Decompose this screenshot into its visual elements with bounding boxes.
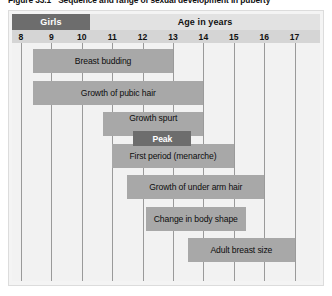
axis-tick-8: 8 <box>10 30 32 43</box>
axis-tick-9: 9 <box>40 30 62 43</box>
bar-label: Growth spurt <box>129 113 177 123</box>
axis-tick-17: 17 <box>284 30 306 43</box>
axis-tick-row: 891011121314151617 <box>12 30 320 43</box>
bar-label: Breast budding <box>75 56 131 66</box>
bar-label: Growth of pubic hair <box>81 88 156 98</box>
bar-label: Growth of under arm hair <box>149 182 242 192</box>
bar-adult-breast-size: Adult breast size <box>188 238 294 262</box>
gridline-8 <box>21 43 22 281</box>
bar-change-in-body-shape: Change in body shape <box>146 207 246 231</box>
bar-label: Change in body shape <box>154 214 238 224</box>
figure-caption: Figure 33.1Sequence and range of sexual … <box>8 0 332 7</box>
plot-area: Breast buddingGrowth of pubic hairGrowth… <box>12 43 320 281</box>
axis-tick-14: 14 <box>192 30 214 43</box>
bar-breast-budding: Breast budding <box>33 49 173 73</box>
figure-caption-text: Sequence and range of sexual development… <box>58 0 270 5</box>
bar-first-period-menarche: First period (menarche) <box>112 144 234 168</box>
bar-label: First period (menarche) <box>129 151 216 161</box>
gridline-17 <box>295 43 296 281</box>
gridline-9 <box>51 43 52 281</box>
figure-root: Figure 33.1Sequence and range of sexual … <box>0 0 332 296</box>
subbar-label: Peak <box>153 134 173 144</box>
axis-tick-12: 12 <box>132 30 154 43</box>
figure-number: Figure 33.1 <box>8 0 51 5</box>
gridline-10 <box>82 43 83 281</box>
axis-tick-11: 11 <box>101 30 123 43</box>
axis-tick-15: 15 <box>223 30 245 43</box>
axis-tick-13: 13 <box>162 30 184 43</box>
axis-title: Age in years <box>90 14 320 30</box>
bar-growth-of-under-arm-hair: Growth of under arm hair <box>127 175 264 199</box>
subbar-peak: Peak <box>133 131 191 146</box>
bar-label: Adult breast size <box>210 245 272 255</box>
axis-tick-10: 10 <box>71 30 93 43</box>
bar-growth-of-pubic-hair: Growth of pubic hair <box>33 81 203 105</box>
axis-tick-16: 16 <box>253 30 275 43</box>
group-label-girls: Girls <box>12 14 90 30</box>
